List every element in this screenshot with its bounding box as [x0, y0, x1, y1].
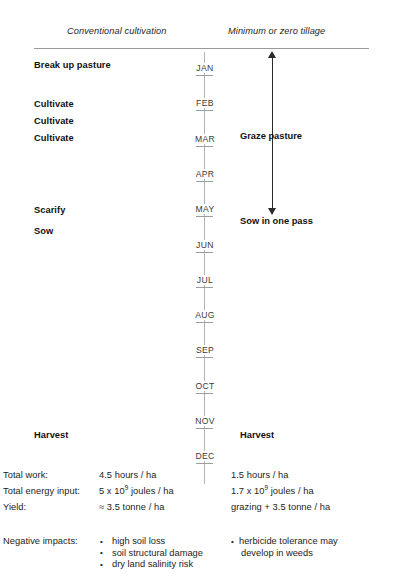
month-label-text: AUG — [193, 310, 217, 320]
conventional-op-cultivate-3: Cultivate — [34, 133, 74, 143]
timeline-tick-after-apr — [196, 181, 213, 182]
conventional-op-cultivate-2: Cultivate — [34, 116, 74, 126]
column-heading-minimum-tillage: Minimum or zero tillage — [228, 26, 325, 36]
timeline-tick-after-sep — [196, 357, 213, 358]
timeline-month-apr: APR — [183, 169, 227, 179]
conventional-negative-impacts-list: high soil losssoil structural damagedry … — [99, 536, 203, 571]
summary-value-yield-minimum: grazing + 3.5 tonne / ha — [231, 502, 330, 512]
timeline-tick-after-jun — [196, 252, 213, 253]
conventional-op-break-up-pasture-0: Break up pasture — [34, 60, 111, 70]
timeline-month-jul: JUL — [183, 275, 227, 285]
summary-value-energy-conventional: 5 x 109 joules / ha — [99, 486, 174, 496]
summary-label-total-work: Total work: — [3, 470, 48, 480]
timeline-tick-after-feb — [196, 110, 213, 111]
timeline-tick-after-aug — [196, 322, 213, 323]
energy-conv-prefix: 5 x 10 — [99, 486, 125, 496]
timeline-tick-after-dec — [196, 463, 213, 464]
timeline-tick-after-may — [196, 216, 213, 217]
conventional-op-cultivate-1: Cultivate — [34, 99, 74, 109]
month-label-text: JUN — [194, 240, 216, 250]
month-label-text: DEC — [193, 451, 216, 461]
energy-min-prefix: 1.7 x 10 — [231, 486, 264, 496]
column-heading-conventional: Conventional cultivation — [67, 26, 166, 36]
conventional-op-sow-5: Sow — [34, 226, 53, 236]
energy-min-suffix: joules / ha — [268, 486, 314, 496]
timeline-month-may: MAY — [183, 204, 227, 214]
timeline-tick-after-mar — [196, 146, 213, 147]
timeline-month-aug: AUG — [183, 310, 227, 320]
minimum-impact-item-line2: develop in weeds — [239, 548, 369, 560]
minimum-impact-item: herbicide tolerance maydevelop in weeds — [231, 536, 369, 559]
summary-label-total-energy-input: Total energy input: — [3, 486, 80, 496]
header-divider-rule — [34, 48, 369, 49]
conventional-impact-item: high soil loss — [99, 536, 203, 548]
timeline-month-feb: FEB — [183, 98, 227, 108]
minimum-negative-impacts-list: herbicide tolerance maydevelop in weeds — [231, 536, 369, 559]
month-label-text: MAR — [193, 134, 217, 144]
cultivation-comparison-diagram: Conventional cultivation Minimum or zero… — [0, 0, 400, 578]
summary-label-yield: Yield: — [3, 502, 26, 512]
summary-value-energy-minimum: 1.7 x 109 joules / ha — [231, 486, 314, 496]
conventional-op-scarify-4: Scarify — [34, 205, 65, 215]
min-tillage-op-graze-pasture: Graze pasture — [240, 131, 302, 141]
timeline-tick-after-jan — [196, 75, 213, 76]
timeline-month-mar: MAR — [183, 134, 227, 144]
month-label-text: MAY — [193, 204, 216, 214]
month-label-text: OCT — [193, 381, 216, 391]
min-tillage-op-harvest: Harvest — [240, 430, 274, 440]
min-tillage-op-sow-in-one-pass: Sow in one pass — [240, 216, 313, 226]
conventional-impact-item: dry land salinity risk — [99, 559, 203, 571]
month-label-text: APR — [194, 169, 217, 179]
month-label-text: NOV — [193, 416, 217, 426]
month-label-text: FEB — [194, 98, 216, 108]
timeline-tick-after-nov — [196, 428, 213, 429]
month-label-text: JUL — [195, 275, 215, 285]
summary-value-total-work-conventional: 4.5 hours / ha — [99, 470, 157, 480]
timeline-month-jun: JUN — [183, 240, 227, 250]
timeline-tick-after-jul — [196, 287, 213, 288]
summary-value-total-work-minimum: 1.5 hours / ha — [231, 470, 289, 480]
summary-value-yield-conventional: ≈ 3.5 tonne / ha — [99, 502, 164, 512]
summary-label-negative-impacts: Negative impacts: — [3, 536, 78, 546]
energy-conv-suffix: joules / ha — [128, 486, 174, 496]
conventional-op-harvest-6: Harvest — [34, 430, 68, 440]
timeline-month-oct: OCT — [183, 381, 227, 391]
month-label-text: JAN — [194, 63, 215, 73]
arrow-head-down-icon — [268, 208, 276, 215]
timeline-month-sep: SEP — [183, 345, 227, 355]
conventional-impact-item: soil structural damage — [99, 548, 203, 560]
timeline-tick-after-oct — [196, 393, 213, 394]
timeline-month-jan: JAN — [183, 63, 227, 73]
timeline-month-dec: DEC — [183, 451, 227, 461]
month-label-text: SEP — [194, 345, 216, 355]
timeline-month-nov: NOV — [183, 416, 227, 426]
